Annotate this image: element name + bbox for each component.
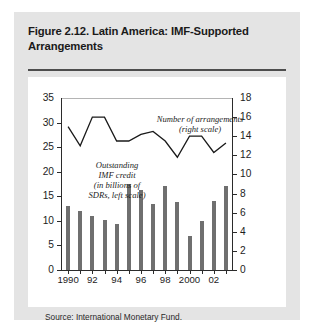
left-axis-tick <box>57 172 61 173</box>
x-axis-tick-label: 02 <box>208 274 219 285</box>
plot-card: 05101520253035 024681012141618 199092949… <box>28 77 286 307</box>
right-axis-tick-label: 6 <box>240 207 246 218</box>
left-axis-tick-label: 35 <box>28 92 54 103</box>
left-axis-tick <box>57 270 61 271</box>
left-axis-tick-label: 30 <box>28 117 54 128</box>
left-axis-tick <box>57 221 61 222</box>
figure-source: Source: International Monetary Fund. <box>45 312 182 322</box>
left-axis-tick-label: 0 <box>28 264 54 275</box>
x-axis-tick-label: 98 <box>160 274 171 285</box>
left-axis-tick <box>57 147 61 148</box>
annotation-line: Number of arrangements (right scale) <box>148 114 252 134</box>
x-axis-tick-label: 2000 <box>179 274 200 285</box>
x-axis-tick <box>129 270 130 274</box>
figure-card: Figure 2.12. Latin America: IMF-Supporte… <box>14 12 300 320</box>
x-axis-tick <box>105 270 106 274</box>
right-axis-tick <box>233 136 237 137</box>
right-axis-tick-label: 12 <box>240 149 251 160</box>
annotation-bars: Outstanding IMF credit (in billions of S… <box>80 160 154 200</box>
right-axis-tick <box>233 270 237 271</box>
right-axis-tick-label: 2 <box>240 245 246 256</box>
left-axis-tick-label: 5 <box>28 239 54 250</box>
x-axis-line <box>61 270 233 271</box>
right-axis-tick <box>233 194 237 195</box>
left-axis-tick-label: 20 <box>28 166 54 177</box>
right-axis-tick <box>233 232 237 233</box>
x-axis-tick-label: 94 <box>111 274 122 285</box>
x-axis-tick <box>226 270 227 274</box>
right-axis-tick-label: 10 <box>240 168 251 179</box>
left-axis-tick <box>57 123 61 124</box>
right-axis-tick-label: 4 <box>240 226 246 237</box>
right-axis-tick <box>233 213 237 214</box>
x-axis-tick-label: 96 <box>136 274 147 285</box>
x-axis-tick-label: 92 <box>87 274 98 285</box>
left-axis-tick <box>57 245 61 246</box>
right-axis-tick-label: 8 <box>240 188 246 199</box>
right-axis-tick <box>233 155 237 156</box>
left-axis-tick-label: 15 <box>28 190 54 201</box>
left-axis-tick-label: 10 <box>28 215 54 226</box>
chart-plot-area: 05101520253035 024681012141618 199092949… <box>62 98 232 270</box>
figure-title: Figure 2.12. Latin America: IMF-Supporte… <box>28 24 286 53</box>
right-axis-tick <box>233 251 237 252</box>
left-axis-tick <box>57 196 61 197</box>
left-axis-tick-label: 25 <box>28 141 54 152</box>
x-axis-tick-label: 1990 <box>57 274 78 285</box>
x-axis-tick <box>202 270 203 274</box>
right-axis-tick <box>233 174 237 175</box>
title-divider <box>28 69 286 71</box>
right-axis-tick-label: 0 <box>240 264 246 275</box>
x-axis-tick <box>153 270 154 274</box>
x-axis-tick <box>80 270 81 274</box>
right-axis-tick-label: 18 <box>240 92 251 103</box>
